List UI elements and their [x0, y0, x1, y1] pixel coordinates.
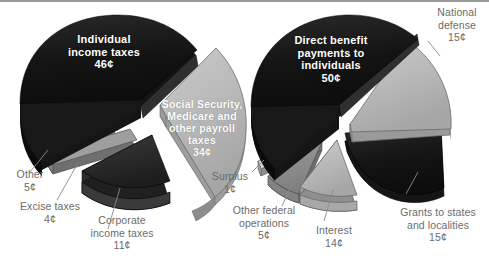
label-social-security-payroll-taxes: Social Security, Medicare and other payr…: [156, 98, 248, 158]
label-national-defense: National defense 15¢: [428, 6, 486, 44]
label-interest: Interest 14¢: [306, 224, 362, 249]
label-grants-to-states: Grants to states and localities 15¢: [388, 206, 488, 244]
label-surplus: Surplus 1¢: [202, 170, 258, 195]
label-corporate-income-taxes: Corporate income taxes 11¢: [70, 214, 174, 252]
label-other: Other 5¢: [2, 168, 58, 193]
figure-canvas: Individual income taxes 46¢ Social Secur…: [0, 0, 489, 258]
label-other-federal-operations: Other federal operations 5¢: [222, 204, 306, 242]
label-direct-benefit-payments: Direct benefit payments to individuals 5…: [271, 34, 391, 84]
label-individual-income-taxes: Individual income taxes 46¢: [41, 33, 167, 71]
